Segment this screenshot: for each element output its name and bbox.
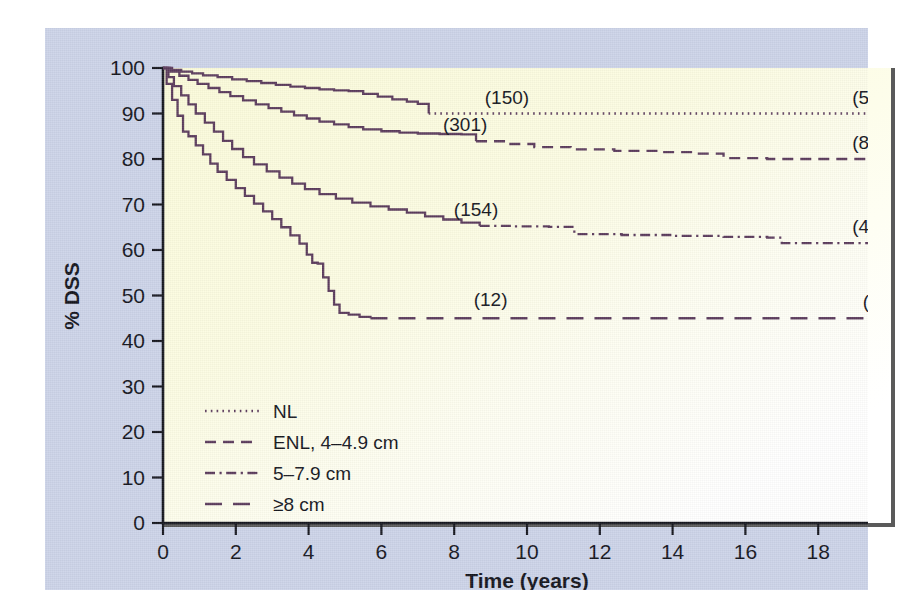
legend-label: NL [273, 401, 297, 422]
series-mid-annotation: (154) [454, 199, 498, 220]
legend-label: ENL, 4–4.9 cm [273, 432, 399, 453]
curve-dashed-segment [480, 226, 868, 243]
x-axis-title: Time (years) [465, 569, 588, 590]
x-tick-label: 12 [588, 540, 611, 563]
x-tick-label: 16 [734, 540, 757, 563]
series-end-annotation: (4) [863, 291, 868, 312]
x-ticks [163, 523, 868, 535]
y-tick-label: 90 [122, 102, 145, 125]
axes-group [162, 67, 868, 525]
y-tick-label: 10 [122, 466, 145, 489]
series-mid-annotation: (12) [474, 289, 508, 310]
y-tick-label: 50 [122, 284, 145, 307]
x-tick-label: 18 [807, 540, 830, 563]
x-tick-label: 14 [661, 540, 685, 563]
y-tick-labels: 0102030405060708090100 [110, 56, 145, 534]
x-tick-label: 6 [376, 540, 388, 563]
y-tick-label: 60 [122, 238, 145, 261]
y-tick-label: 30 [122, 375, 145, 398]
y-ticks [152, 68, 163, 523]
curve-solid-segment [163, 68, 429, 114]
series-end-annotation: (48) [852, 216, 868, 237]
x-tick-label: 0 [157, 540, 169, 563]
legend-label: ≥8 cm [273, 494, 325, 515]
x-tick-labels: 02468101214161820 [157, 540, 868, 563]
annotations-group: (150)(58)(301)(88)(154)(48)(12)(4) [443, 87, 868, 313]
legend-label: 5–7.9 cm [273, 463, 351, 484]
y-tick-label: 20 [122, 420, 145, 443]
series-mid-annotation: (301) [443, 114, 487, 135]
y-tick-label: 40 [122, 329, 145, 352]
x-tick-label: 4 [303, 540, 315, 563]
y-tick-label: 80 [122, 147, 145, 170]
legend: NLENL, 4–4.9 cm5–7.9 cm≥8 cm [205, 401, 399, 515]
x-tick-label: 10 [515, 540, 538, 563]
series-end-annotation: (88) [852, 132, 868, 153]
curve-dashed-segment [476, 141, 868, 159]
survival-chart: 0102030405060708090100 02468101214161820… [45, 28, 868, 590]
y-tick-label: 100 [110, 56, 145, 79]
series-end-annotation: (58) [852, 87, 868, 108]
x-tick-label: 2 [230, 540, 242, 563]
series-mid-annotation: (150) [485, 87, 529, 108]
y-tick-label: 70 [122, 193, 145, 216]
figure-page: 0102030405060708090100 02468101214161820… [0, 0, 912, 613]
y-tick-label: 0 [133, 511, 145, 534]
y-axis-title: % DSS [60, 262, 83, 330]
x-tick-label: 8 [448, 540, 460, 563]
figure-card: 0102030405060708090100 02468101214161820… [45, 28, 868, 590]
curve-solid-segment [163, 68, 480, 226]
